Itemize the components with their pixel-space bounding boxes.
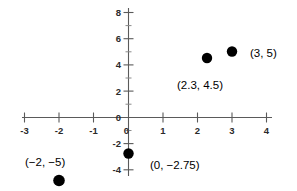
point-label-2.3-4.5: (2.3, 4.5) (177, 80, 223, 92)
x-tick-label: -1 (89, 125, 98, 136)
coordinate-plane-figure: -3 -2 -1 0 1 2 3 4 8 6 4 2 0 -2 -4 (3, 5… (0, 0, 297, 191)
y-tick-label: -4 (113, 164, 122, 175)
y-tick-label: 8 (116, 7, 121, 18)
x-tick-label: 4 (264, 125, 270, 136)
x-tick-label: -3 (20, 125, 28, 136)
data-points (53, 46, 237, 186)
x-axis-tick-labels: -3 -2 -1 0 1 2 3 4 (20, 125, 270, 136)
data-point-0-neg2.75 (123, 148, 133, 158)
data-point-3-5 (227, 46, 237, 56)
point-label-0-neg2.75: (0, −2.75) (150, 160, 200, 172)
data-point-neg2-neg5 (53, 175, 65, 187)
point-label-neg2-neg5: (−2, −5) (25, 157, 65, 169)
y-axis-tick-labels: 8 6 4 2 0 -2 -4 (113, 7, 122, 175)
data-point-2.3-4.5 (202, 53, 212, 63)
point-label-3-5: (3, 5) (250, 48, 277, 60)
x-tick-label: 0 (124, 125, 129, 136)
x-tick-label: 1 (160, 125, 166, 136)
y-tick-label: 6 (116, 33, 121, 44)
y-tick-label: 0 (116, 112, 121, 123)
x-tick-label: 3 (229, 125, 234, 136)
y-tick-label: -2 (113, 138, 121, 149)
x-tick-label: -2 (55, 125, 63, 136)
x-tick-label: 2 (195, 125, 200, 136)
y-tick-label: 2 (116, 86, 121, 97)
y-tick-label: 4 (116, 59, 122, 70)
